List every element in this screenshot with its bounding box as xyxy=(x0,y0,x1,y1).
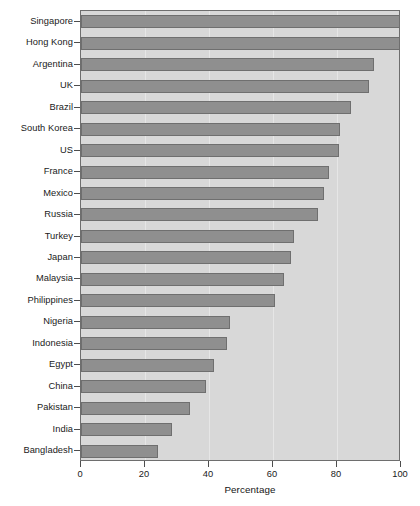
y-axis-tick-label: Pakistan xyxy=(37,402,73,412)
bar xyxy=(81,208,318,221)
y-axis-tick xyxy=(74,300,80,301)
y-axis-tick xyxy=(74,128,80,129)
bar-row xyxy=(81,226,399,247)
bar xyxy=(81,80,369,93)
y-axis-tick-label: US xyxy=(60,145,73,155)
y-axis-tick xyxy=(74,21,80,22)
x-axis-tick-label: 20 xyxy=(124,469,164,480)
bar-row xyxy=(81,355,399,376)
y-axis-tick xyxy=(74,42,80,43)
y-axis-tick xyxy=(74,257,80,258)
bar xyxy=(81,101,351,114)
x-axis-tick xyxy=(80,461,81,467)
bar-row xyxy=(81,312,399,333)
y-axis-tick xyxy=(74,171,80,172)
bar-row xyxy=(81,204,399,225)
y-axis-tick xyxy=(74,278,80,279)
y-axis-tick-label: Singapore xyxy=(30,16,73,26)
bar xyxy=(81,123,340,136)
x-axis-tick xyxy=(272,461,273,467)
bar-row xyxy=(81,183,399,204)
y-axis-tick xyxy=(74,450,80,451)
bar xyxy=(81,380,206,393)
y-axis-tick-label: France xyxy=(44,166,73,176)
bar xyxy=(81,15,400,28)
bar xyxy=(81,166,329,179)
bar-row xyxy=(81,32,399,53)
bar-row xyxy=(81,269,399,290)
y-axis-tick-label: Philippines xyxy=(27,295,73,305)
y-axis-tick xyxy=(74,214,80,215)
y-axis-tick-label: Indonesia xyxy=(32,338,73,348)
bar-row xyxy=(81,333,399,354)
bar-row xyxy=(81,75,399,96)
y-axis-tick xyxy=(74,150,80,151)
y-axis-tick xyxy=(74,364,80,365)
y-axis-tick-label: Hong Kong xyxy=(26,37,73,47)
bar-row xyxy=(81,290,399,311)
x-axis-tick-label: 40 xyxy=(188,469,228,480)
y-axis-tick xyxy=(74,386,80,387)
bar xyxy=(81,251,291,264)
y-axis-tick xyxy=(74,236,80,237)
x-axis-tick xyxy=(336,461,337,467)
x-axis-tick-label: 0 xyxy=(60,469,100,480)
y-axis-tick xyxy=(74,343,80,344)
x-axis-tick xyxy=(400,461,401,467)
x-axis-tick-label: 80 xyxy=(316,469,356,480)
bar-row xyxy=(81,376,399,397)
y-axis-tick xyxy=(74,107,80,108)
bar xyxy=(81,230,294,243)
y-axis-tick-label: Egypt xyxy=(49,359,73,369)
bar-row xyxy=(81,419,399,440)
bar xyxy=(81,294,275,307)
y-axis-tick-label: Turkey xyxy=(45,231,73,241)
x-axis-tick xyxy=(144,461,145,467)
y-axis-tick-label: South Korea xyxy=(21,123,73,133)
x-axis-tick-label: 100 xyxy=(380,469,420,480)
y-axis-tick-label: Mexico xyxy=(43,188,73,198)
bar-row xyxy=(81,118,399,139)
bar-row xyxy=(81,140,399,161)
y-axis-tick xyxy=(74,193,80,194)
y-axis-tick-label: Brazil xyxy=(49,102,73,112)
bar xyxy=(81,316,230,329)
bar-row xyxy=(81,398,399,419)
bar-row xyxy=(81,247,399,268)
bar xyxy=(81,337,227,350)
y-axis-tick-label: India xyxy=(53,424,73,434)
bar xyxy=(81,423,172,436)
x-axis-tick xyxy=(208,461,209,467)
x-axis-tick-label: 60 xyxy=(252,469,292,480)
bar xyxy=(81,187,324,200)
bar-chart: SingaporeHong KongArgentinaUKBrazilSouth… xyxy=(0,0,420,506)
y-axis-tick-label: UK xyxy=(60,80,73,90)
y-axis-tick-label: Japan xyxy=(47,252,73,262)
bar-row xyxy=(81,11,399,32)
bar-row xyxy=(81,97,399,118)
bar-row xyxy=(81,54,399,75)
y-axis-tick-label: Bangladesh xyxy=(23,445,73,455)
y-axis-tick xyxy=(74,429,80,430)
bar xyxy=(81,37,400,50)
x-axis-title: Percentage xyxy=(0,484,420,495)
bar xyxy=(81,144,339,157)
bar xyxy=(81,359,214,372)
y-axis-tick xyxy=(74,321,80,322)
y-axis-tick xyxy=(74,85,80,86)
bar xyxy=(81,402,190,415)
bar-row xyxy=(81,161,399,182)
plot-panel xyxy=(80,10,400,461)
y-axis-tick xyxy=(74,407,80,408)
y-axis-tick-label: Malaysia xyxy=(36,273,73,283)
bar-row xyxy=(81,441,399,461)
bar xyxy=(81,273,284,286)
y-axis-tick-label: Argentina xyxy=(33,59,73,69)
y-axis-tick-label: Nigeria xyxy=(43,316,73,326)
bar xyxy=(81,58,374,71)
y-axis-tick xyxy=(74,64,80,65)
y-axis-tick-label: China xyxy=(48,381,73,391)
bar xyxy=(81,445,158,458)
y-axis-tick-label: Russia xyxy=(44,209,73,219)
